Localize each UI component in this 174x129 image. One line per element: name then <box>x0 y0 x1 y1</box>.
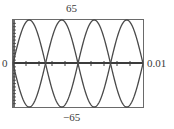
plot-area <box>0 0 174 129</box>
